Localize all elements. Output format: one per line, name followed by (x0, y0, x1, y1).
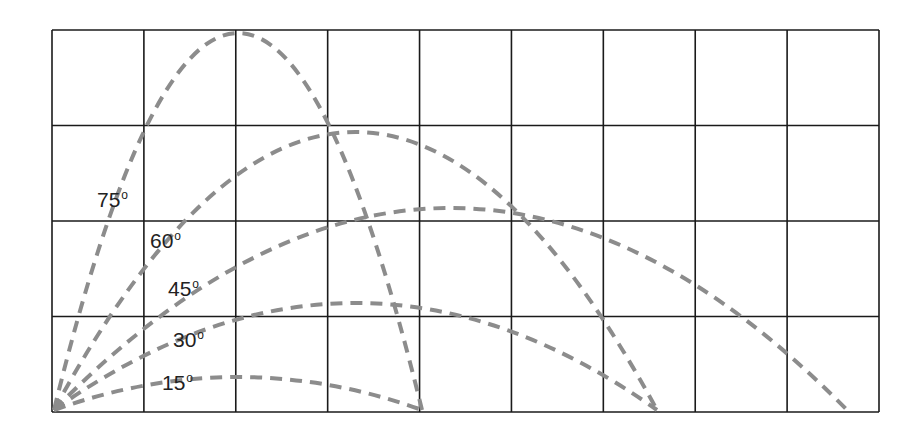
angle-label-30: 30o (173, 329, 204, 350)
trajectory-diagram: 75o 60o 45o 30o 15o (0, 0, 916, 438)
angle-label-75: 75o (97, 189, 128, 210)
diagram-canvas (0, 0, 916, 438)
angle-label-60: 60o (150, 230, 181, 251)
grid (52, 30, 879, 412)
trajectory-15-deg (54, 377, 422, 410)
angle-label-45: 45o (168, 278, 199, 299)
angle-label-15: 15o (162, 372, 193, 393)
